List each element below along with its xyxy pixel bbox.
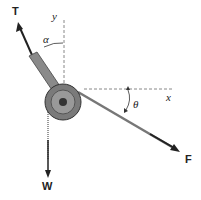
weight-arrowhead (45, 170, 51, 178)
weight-label: W (42, 180, 52, 192)
force-arrow (150, 134, 176, 149)
theta-arc (126, 90, 130, 110)
tension-label: T (12, 5, 19, 17)
tension-arrow (20, 28, 32, 55)
theta-label: θ (133, 98, 138, 110)
x-axis-label: x (166, 91, 171, 103)
pulley-axle (59, 98, 67, 106)
y-axis-label: y (52, 10, 57, 22)
force-label: F (185, 153, 192, 165)
alpha-label: α (43, 33, 49, 45)
force-arrowhead (170, 144, 180, 152)
